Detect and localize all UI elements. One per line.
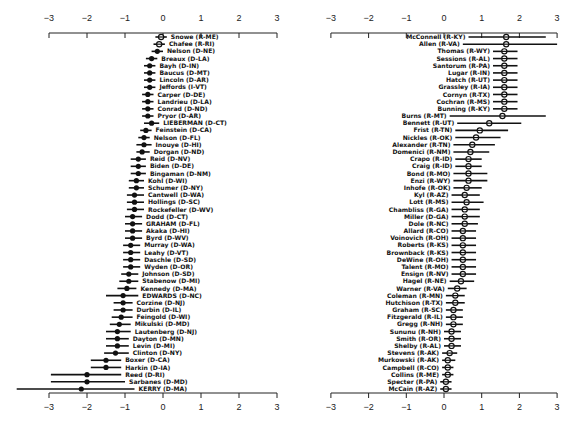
senator-label: Chafee (R-RI) [169,40,215,47]
senator-label: Lott (R-MS) [409,198,448,205]
data-row: Cochran (R-MS) [437,98,518,105]
tick-label: −2 [82,402,92,412]
data-row: Biden (D-DE) [131,162,195,169]
senator-label: Cochran (R-MS) [437,98,491,105]
senator-label: Landrieu (D-LA) [158,98,212,105]
data-row: Chambliss (R-GA) [389,206,480,213]
data-row: Smith (R-OR) [396,335,461,342]
senator-label: Miller (D-GA) [404,213,449,220]
data-row: Inhofe (R-OK) [404,184,482,191]
point-estimate-marker [119,315,124,320]
data-row: Nelson (D-NE) [152,47,216,54]
senator-label: Domenici (R-NM) [392,148,450,155]
data-row: Levin (D-MI) [106,342,175,349]
point-estimate-marker [149,56,154,61]
data-row: Burns (R-MT) [402,112,546,119]
data-row: Dole (R-NC) [409,220,478,227]
bottom-axis: −3−2−10123 [44,393,280,412]
point-estimate-marker [145,92,150,97]
data-row: Brownback (R-KS) [387,249,476,256]
senator-label: Snowe (R-ME) [171,33,219,40]
senator-label: Durbin (D-IL) [137,306,182,313]
senator-label: Inhofe (R-OK) [404,184,451,191]
senator-label: Talent (R-MO) [401,263,448,270]
point-estimate-marker [149,121,154,126]
data-row: Graham (R-SC) [392,306,463,313]
data-row: Bond (R-MO) [407,170,488,177]
point-estimate-marker [130,228,135,233]
point-estimate-marker [141,135,146,140]
point-estimate-marker [124,286,129,291]
senator-label: Lincoln (D-AR) [159,76,209,83]
senator-label: Reid (D-NV) [150,155,191,162]
senator-label: Bennett (R-UT) [403,119,455,126]
data-row: Daschle (D-SD) [123,256,196,263]
senator-label: Nickles (R-OK) [403,134,453,141]
data-row: Reed (D-RI) [51,371,165,378]
tick-label: 1 [479,13,484,23]
senator-label: Brownback (R-KS) [387,249,449,256]
tick-label: 0 [441,13,446,23]
data-row: Nelson (D-FL) [138,134,201,141]
point-estimate-marker [136,157,141,162]
senator-label: KERRY (D-MA) [139,385,188,392]
data-row: Feinstein (D-CA) [140,126,212,133]
senator-label: McConnell (R-KY) [406,33,466,40]
point-estimate-marker [145,113,150,118]
data-row: Clinton (D-NY) [104,349,182,356]
senator-label: Chambliss (R-GA) [389,206,449,213]
tick-label: 0 [160,402,165,412]
senator-label: Harkin (D-IA) [125,364,170,371]
data-row: Voinovich (R-OH) [390,234,476,241]
tick-label: −1 [120,13,130,23]
senator-label: Santorum (R-PA) [433,62,490,69]
data-row: Santorum (R-PA) [433,62,518,69]
tick-label: 0 [160,13,165,23]
point-estimate-marker [121,293,126,298]
senator-label: Conrad (D-ND) [158,105,208,112]
tick-label: 3 [555,13,560,23]
senator-label: Cantwell (D-WA) [148,191,204,198]
data-row: Reid (D-NV) [131,155,191,162]
senator-label: Stevens (R-AK) [387,349,439,356]
data-row: Stevens (R-AK) [387,349,457,356]
point-estimate-marker [132,200,137,205]
senator-label: Dole (R-NC) [409,220,449,227]
data-row: Kohl (D-WI) [129,177,188,184]
senator-label: Coleman (R-MN) [387,292,443,299]
point-estimate-marker [130,221,135,226]
tick-label: 3 [274,13,279,23]
tick-label: −2 [363,13,373,23]
data-row: Akaka (D-HI) [125,227,190,234]
point-estimate-marker [147,85,152,90]
data-row: EDWARDS (D-NC) [106,292,202,299]
senator-label: Nelson (D-NE) [167,47,215,54]
point-estimate-marker [117,322,122,327]
data-row: Nickles (R-OK) [403,134,501,141]
point-estimate-marker [115,336,120,341]
senator-label: Smith (R-OR) [396,335,441,342]
data-row: Murkowski (R-AK) [378,356,455,363]
senator-label: Enzi (R-WY) [411,177,451,184]
point-estimate-marker [128,243,133,248]
point-estimate-marker [145,99,150,104]
senator-label: Murkowski (R-AK) [378,356,439,363]
data-row: Coleman (R-MN) [387,292,465,299]
point-estimate-marker [134,185,139,190]
senator-label: EDWARDS (D-NC) [142,292,202,299]
point-estimate-marker [84,372,89,377]
data-row: Allard (R-CO) [404,227,476,234]
point-estimate-marker [147,70,152,75]
senator-label: Sununu (R-NH) [390,328,441,335]
senator-label: Allard (R-CO) [404,227,449,234]
data-row: Thomas (R-WY) [437,47,517,54]
senator-label: Daschle (D-SD) [144,256,196,263]
tick-label: 1 [479,402,484,412]
data-row: Allen (R-VA) [419,40,557,47]
data-row: GRAHAM (D-FL) [125,220,200,227]
tick-label: −2 [363,402,373,412]
point-estimate-marker [115,343,120,348]
data-row: Landrieu (D-LA) [142,98,212,105]
data-row: Alexander (R-TN) [392,141,495,148]
senator-label: Collins (R-ME) [391,371,439,378]
